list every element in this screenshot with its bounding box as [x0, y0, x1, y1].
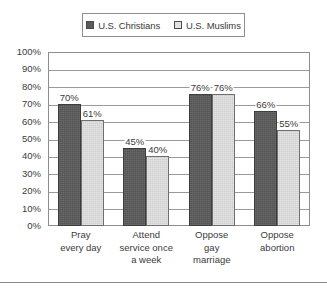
- bar-group: [254, 52, 300, 226]
- y-axis-tick-label: 50%: [22, 134, 41, 144]
- bar-texture: [255, 112, 276, 225]
- x-axis-category-line: service once: [114, 242, 180, 255]
- y-axis-tick-label: 100%: [17, 47, 41, 57]
- bar-muslims: [81, 120, 104, 226]
- legend-label-muslims: U.S. Muslims: [186, 20, 241, 31]
- bar-texture: [59, 105, 80, 225]
- legend-swatch-christians: [86, 21, 94, 29]
- bar-texture: [147, 157, 168, 225]
- y-axis-tick-label: 10%: [22, 204, 41, 214]
- chart-legend: U.S. Christians U.S. Muslims: [82, 13, 245, 37]
- bar-muslims: [212, 94, 235, 226]
- x-axis-category-line: abortion: [245, 242, 311, 255]
- bar-chart-figure: U.S. Christians U.S. Muslims 0%10%20%30%…: [0, 0, 327, 290]
- y-axis-tick-label: 30%: [22, 169, 41, 179]
- legend-swatch-muslims: [174, 21, 182, 29]
- bar-muslims: [277, 130, 300, 226]
- bars-layer: 70%61%45%40%76%76%66%55%: [48, 52, 310, 226]
- bottom-divider: [0, 282, 327, 283]
- bar-texture: [190, 95, 211, 225]
- legend-item-muslims: U.S. Muslims: [174, 20, 241, 31]
- x-axis-category-line: Oppose: [245, 229, 311, 242]
- x-axis-category-label: Prayevery day: [48, 229, 114, 254]
- x-axis-category-line: every day: [48, 242, 114, 255]
- y-axis-tick-label: 70%: [22, 99, 41, 109]
- bar-christians: [254, 111, 277, 226]
- bar-christians: [189, 94, 212, 226]
- bar-texture: [82, 121, 103, 225]
- x-axis-category-line: marriage: [179, 254, 245, 267]
- y-axis-tick-label: 90%: [22, 65, 41, 75]
- x-axis-category-line: gay: [179, 242, 245, 255]
- bar-muslims: [146, 156, 169, 226]
- bar-group: [123, 52, 169, 226]
- legend-item-christians: U.S. Christians: [86, 20, 160, 31]
- y-axis-tick-label: 40%: [22, 152, 41, 162]
- x-axis-category-label: Opposegaymarriage: [179, 229, 245, 267]
- y-axis-tick-label: 60%: [22, 117, 41, 127]
- y-axis: 0%10%20%30%40%50%60%70%80%90%100%: [0, 52, 46, 226]
- x-axis-category-line: Oppose: [179, 229, 245, 242]
- bar-texture: [124, 149, 145, 225]
- bar-group: [58, 52, 104, 226]
- y-axis-tick-label: 80%: [22, 82, 41, 92]
- x-axis-category-label: Attendservice oncea week: [114, 229, 180, 267]
- bar-christians: [123, 148, 146, 226]
- legend-label-christians: U.S. Christians: [98, 20, 160, 31]
- y-axis-tick-label: 20%: [22, 186, 41, 196]
- x-axis-category-line: Attend: [114, 229, 180, 242]
- bar-texture: [213, 95, 234, 225]
- x-axis-category-line: a week: [114, 254, 180, 267]
- bar-christians: [58, 104, 81, 226]
- bar-texture: [278, 131, 299, 225]
- x-axis-category-line: Pray: [48, 229, 114, 242]
- x-axis: Prayevery dayAttendservice oncea weekOpp…: [48, 229, 310, 275]
- x-axis-category-label: Opposeabortion: [245, 229, 311, 254]
- bar-group: [189, 52, 235, 226]
- y-axis-tick-label: 0%: [27, 221, 41, 231]
